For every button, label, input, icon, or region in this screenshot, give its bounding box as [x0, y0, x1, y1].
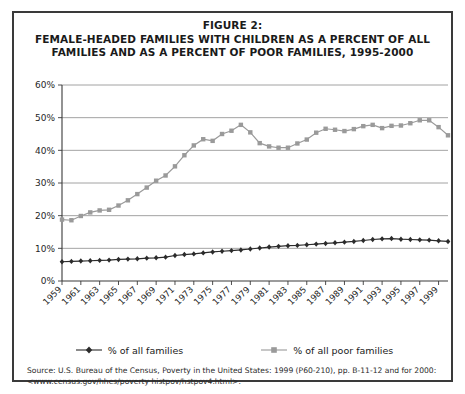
source-note: Source: U.S. Bureau of the Census, Pover… — [27, 365, 442, 387]
svg-text:1975: 1975 — [192, 284, 215, 307]
x-axis-labels: 1959196119631965196719691971197319751977… — [41, 284, 440, 307]
svg-text:1973: 1973 — [173, 284, 196, 307]
svg-text:1997: 1997 — [399, 284, 422, 307]
svg-text:1969: 1969 — [135, 284, 158, 307]
svg-text:1967: 1967 — [116, 284, 139, 307]
y-axis-ticks — [58, 85, 62, 281]
figure-title-line-3: FAMILIES AND AS A PERCENT OF POOR FAMILI… — [14, 46, 451, 60]
svg-text:50%: 50% — [35, 113, 55, 123]
chart-plot-area: 0%10%20%30%40%50%60% 1959196119631965196… — [14, 73, 455, 313]
legend-label-all-poor-families: % of all poor families — [293, 345, 393, 356]
figure-title-line-1: FIGURE 2: — [14, 19, 451, 33]
svg-text:20%: 20% — [35, 211, 55, 221]
legend-marker-square-icon — [261, 345, 287, 355]
legend-item-all-poor-families: % of all poor families — [261, 345, 393, 356]
svg-text:1979: 1979 — [229, 284, 252, 307]
figure-title-line-2: FEMALE-HEADED FAMILIES WITH CHILDREN AS … — [14, 33, 451, 47]
svg-text:1965: 1965 — [97, 284, 120, 307]
svg-text:1999: 1999 — [417, 284, 440, 307]
chart-legend: % of all families % of all poor families — [14, 339, 455, 361]
svg-text:0%: 0% — [41, 276, 56, 286]
figure-frame: FIGURE 2: FEMALE-HEADED FAMILIES WITH CH… — [12, 11, 453, 382]
legend-label-all-families: % of all families — [108, 345, 183, 356]
legend-marker-diamond-icon — [76, 345, 102, 355]
svg-text:1995: 1995 — [380, 284, 403, 307]
svg-text:1993: 1993 — [361, 284, 384, 307]
svg-text:10%: 10% — [35, 244, 55, 254]
y-axis-labels: 0%10%20%30%40%50%60% — [35, 80, 55, 286]
gridlines — [62, 85, 448, 248]
svg-text:1991: 1991 — [342, 284, 365, 307]
svg-text:1971: 1971 — [154, 284, 177, 307]
svg-text:1989: 1989 — [323, 284, 346, 307]
svg-text:30%: 30% — [35, 178, 55, 188]
svg-text:1961: 1961 — [60, 284, 83, 307]
figure-title: FIGURE 2: FEMALE-HEADED FAMILIES WITH CH… — [14, 19, 451, 60]
line-chart: 0%10%20%30%40%50%60% 1959196119631965196… — [14, 73, 455, 313]
legend-item-all-families: % of all families — [76, 345, 183, 356]
svg-text:1985: 1985 — [286, 284, 309, 307]
svg-text:60%: 60% — [35, 80, 55, 90]
svg-text:1981: 1981 — [248, 284, 271, 307]
x-axis-ticks — [62, 281, 439, 285]
svg-text:40%: 40% — [35, 146, 55, 156]
svg-text:1959: 1959 — [41, 284, 64, 307]
svg-text:1977: 1977 — [210, 284, 233, 307]
svg-text:1983: 1983 — [267, 284, 290, 307]
svg-text:1963: 1963 — [79, 284, 102, 307]
svg-text:1987: 1987 — [304, 284, 327, 307]
series-layer — [60, 118, 451, 264]
